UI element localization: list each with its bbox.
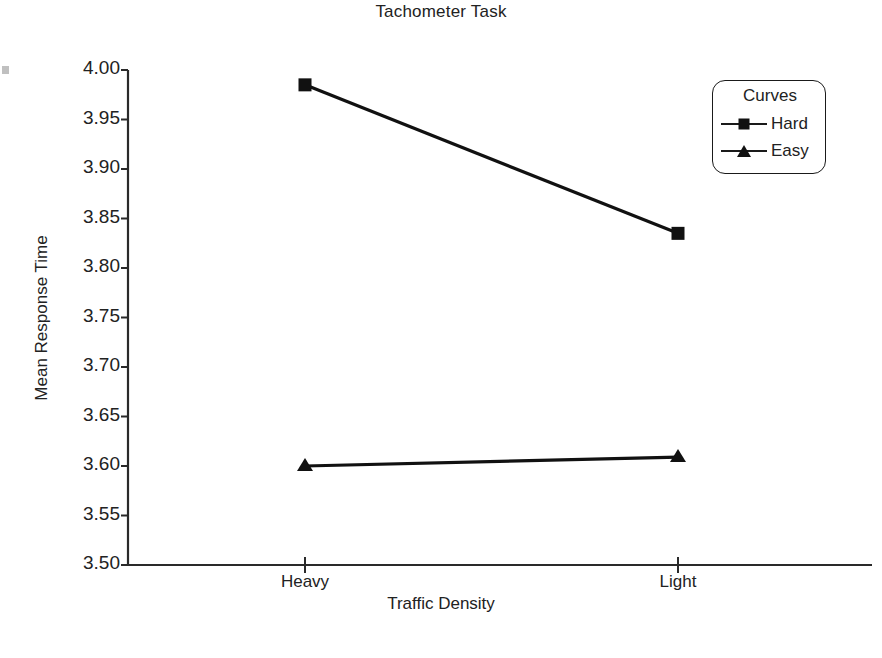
triangle-marker-icon [737,145,751,157]
data-series [297,78,686,471]
legend-key-triangle [719,140,769,162]
legend-entry-easy: Easy [719,138,823,164]
legend-label-hard: Hard [769,114,808,134]
axis-ticks [121,70,678,573]
legend-entry-hard: Hard [719,111,823,137]
legend-label-easy: Easy [769,141,809,161]
legend-title: Curves [713,86,827,106]
legend: Curves Hard Easy [712,80,826,174]
square-marker-icon [739,119,750,130]
legend-key-square [719,113,769,135]
chart-figure: Tachometer Task Mean Response Time Traff… [0,0,882,658]
